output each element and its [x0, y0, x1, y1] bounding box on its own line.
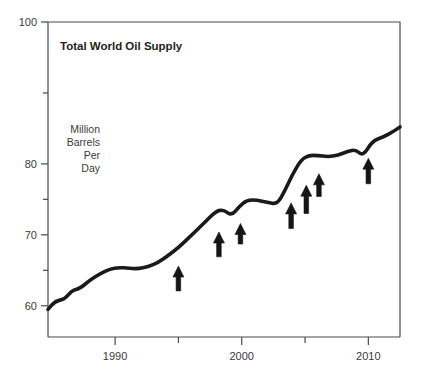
y-tick-label: 100 — [19, 16, 37, 28]
x-tick-label: 1990 — [103, 350, 127, 362]
y-tick-label: 70 — [25, 229, 37, 241]
y-tick-label: 80 — [25, 158, 37, 170]
chart-title: Total World Oil Supply — [60, 40, 183, 52]
chart-figure: 100807060 199020002010 Total World Oil S… — [0, 0, 423, 373]
x-tick-label: 2010 — [356, 350, 380, 362]
y-axis-label-line: Barrels — [67, 136, 100, 148]
y-tick-label: 60 — [25, 300, 37, 312]
y-axis-label-line: Million — [70, 123, 100, 135]
x-tick-label: 2000 — [229, 350, 253, 362]
chart-background — [0, 0, 423, 373]
y-axis-label-line: Day — [81, 162, 100, 174]
oil-supply-line-chart: 100807060 199020002010 Total World Oil S… — [0, 0, 423, 373]
y-axis-label-line: Per — [84, 149, 101, 161]
